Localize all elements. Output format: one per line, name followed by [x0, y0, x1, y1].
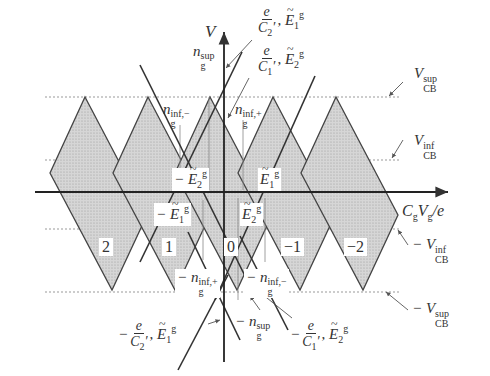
slope-c1-top-label: eC1′, E2g: [256, 43, 304, 77]
diamond-label: −2: [344, 238, 367, 256]
slope-c2-bottom-label: −eC2′, E1g: [118, 318, 176, 352]
ng-sup-label: nsupg: [193, 44, 214, 71]
neg-ng-inf-minus-label: − ninf,−g: [244, 269, 289, 298]
vcb-sup-label: VsupCB: [414, 66, 437, 94]
neg-E2g-label: − E2g: [172, 168, 209, 191]
neg-vcb-inf-label: − VinfCB: [412, 237, 448, 265]
slope-c1-bottom-label: −eC1′, E2g: [290, 318, 348, 352]
neg-ng-inf-plus-label: − ninf,+g: [175, 269, 220, 298]
diamond-label: −1: [281, 238, 304, 256]
diamond-4: [301, 97, 398, 290]
vcb-inf-label: VinfCB: [414, 133, 437, 161]
slope-c2-top-label: eC2′, E1g: [256, 4, 304, 38]
neg-ng-sup-label: − nsupg: [235, 314, 270, 341]
neg-E1g-label: − E1g: [154, 203, 191, 226]
E1g-label: E1g: [258, 168, 281, 191]
diamond-label: 1: [162, 238, 176, 256]
neg-vcb-sup-label: − VsupCB: [412, 301, 449, 329]
y-axis-label: V: [205, 23, 215, 40]
diamond-label: 2: [99, 238, 113, 256]
ng-inf-plus-label: ninf,+g: [235, 102, 262, 129]
ng-inf-minus-label: ninf,−g: [163, 102, 190, 129]
E2g-label: E2g: [240, 203, 263, 226]
diamond-label: 0: [224, 238, 238, 256]
x-axis-label: CgVg/e: [402, 203, 444, 222]
